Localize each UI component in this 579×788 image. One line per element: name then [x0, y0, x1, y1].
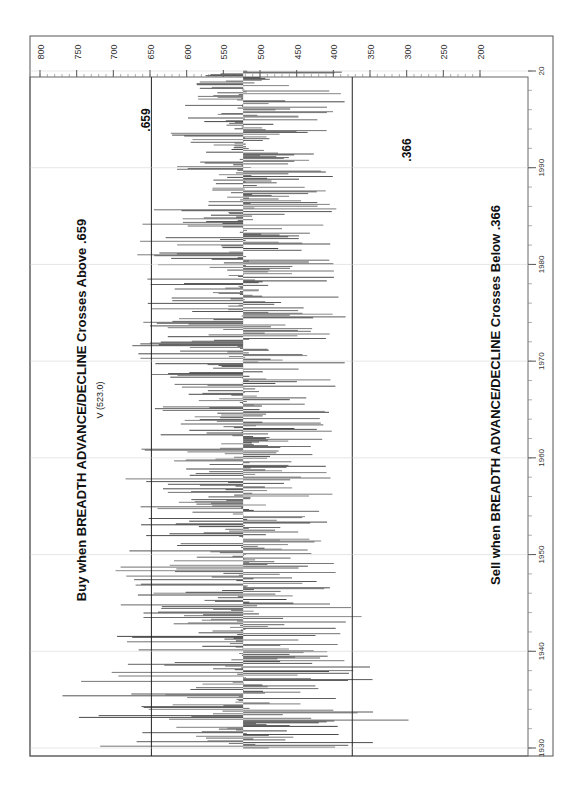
buy-annotation: Buy when BREADTH ADVANCE/DECLINE Crosses… — [74, 219, 89, 601]
upper-level-label: .659 — [139, 108, 153, 132]
time-tick-label: 1970 — [537, 352, 546, 370]
chart: 800750700650600550500450400350300250200 … — [0, 0, 579, 788]
value-tick-label: 750 — [73, 44, 83, 59]
value-tick-label: 600 — [183, 44, 193, 59]
value-tick-label: 550 — [219, 44, 229, 59]
time-axis: 193019401950196019701980199020 — [528, 66, 546, 757]
outer-frame — [30, 36, 553, 756]
value-tick-label: 300 — [403, 44, 413, 59]
value-tick-label: 450 — [293, 44, 303, 59]
value-tick-label: 800 — [36, 44, 46, 59]
oscillator-bars — [63, 71, 409, 748]
time-tick-label: 1960 — [537, 448, 546, 466]
value-tick-label: 500 — [256, 44, 266, 59]
time-tick-label: 1980 — [537, 255, 546, 273]
value-tick-label: 700 — [109, 44, 119, 59]
lower-level-label: .366 — [400, 138, 414, 162]
chart-title: V (523.0) — [95, 381, 105, 418]
time-tick-label: 1950 — [537, 545, 546, 563]
sell-annotation: Sell when BREADTH ADVANCE/DECLINE Crosse… — [488, 205, 503, 585]
value-tick-label: 200 — [476, 44, 486, 59]
time-tick-label: 20 — [537, 66, 546, 75]
value-tick-label: 650 — [146, 44, 156, 59]
time-tick-label: 1990 — [537, 158, 546, 176]
time-tick-label: 1930 — [537, 739, 546, 757]
time-tick-label: 1940 — [537, 642, 546, 660]
value-tick-label: 250 — [439, 44, 449, 59]
value-tick-label: 400 — [329, 44, 339, 59]
value-tick-label: 350 — [366, 44, 376, 59]
